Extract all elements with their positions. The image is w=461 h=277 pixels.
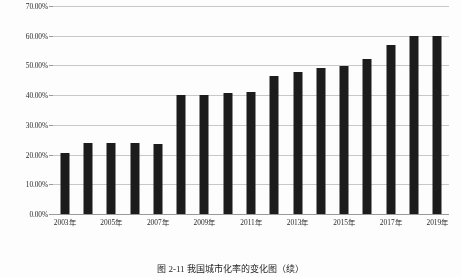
plot-area — [53, 6, 449, 214]
figure-caption: 图 2-11 我国城市化率的变化图（续） — [0, 262, 461, 275]
bar — [363, 59, 372, 214]
x-axis-tick-label: 2019年 — [426, 216, 448, 227]
bar — [340, 66, 349, 214]
y-axis-tick-label: 0.00% — [29, 210, 48, 219]
y-axis-tick-label: 70.00% — [26, 2, 48, 11]
y-axis-tick — [49, 214, 53, 215]
bar — [316, 68, 325, 214]
bar — [107, 143, 116, 214]
x-axis-labels: 2003年2005年2007年2009年2011年2013年2015年2017年… — [53, 216, 449, 232]
bar — [153, 144, 162, 214]
x-axis-tick-label: 2009年 — [194, 216, 216, 227]
y-axis-tick-label: 30.00% — [26, 120, 48, 129]
x-axis-tick-label: 2007年 — [147, 216, 169, 227]
bar — [200, 95, 209, 214]
x-axis-tick-label: 2015年 — [333, 216, 355, 227]
y-axis-labels: 70.00%60.00%50.00%40.00%30.00%20.00%10.0… — [0, 6, 52, 214]
x-axis-tick-label: 2011年 — [240, 216, 262, 227]
bar — [433, 36, 442, 214]
x-axis-tick-label: 2013年 — [287, 216, 309, 227]
bar — [177, 95, 186, 214]
bar — [410, 36, 419, 214]
bar — [60, 153, 69, 214]
x-axis-tick-label: 2005年 — [100, 216, 122, 227]
bar — [130, 143, 139, 214]
y-axis-tick-label: 60.00% — [26, 31, 48, 40]
x-axis-line — [53, 214, 449, 215]
bar — [83, 143, 92, 214]
bar — [293, 72, 302, 214]
y-axis-tick-label: 40.00% — [26, 91, 48, 100]
y-axis-tick-label: 20.00% — [26, 150, 48, 159]
bar-series — [53, 6, 449, 214]
x-axis-tick-label: 2017年 — [380, 216, 402, 227]
y-axis-tick-label: 10.00% — [26, 180, 48, 189]
bar — [270, 76, 279, 214]
y-axis-tick-label: 50.00% — [26, 61, 48, 70]
bar — [386, 45, 395, 214]
bar-chart: 70.00%60.00%50.00%40.00%30.00%20.00%10.0… — [0, 6, 461, 232]
bar — [223, 93, 232, 214]
bar — [247, 92, 256, 214]
x-axis-tick-label: 2003年 — [54, 216, 76, 227]
figure-container: 70.00%60.00%50.00%40.00%30.00%20.00%10.0… — [0, 0, 461, 277]
